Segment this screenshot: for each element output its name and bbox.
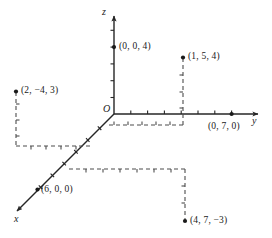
x-axis-label: x bbox=[14, 214, 19, 224]
axis-y bbox=[114, 111, 258, 115]
point-2-neg4-3 bbox=[14, 89, 18, 93]
guide-point-4-7-neg3 bbox=[69, 169, 185, 221]
point-label-1-5-4: (1, 5, 4) bbox=[188, 52, 220, 62]
point-0-7-0 bbox=[230, 112, 234, 116]
origin-label: O bbox=[103, 104, 110, 114]
y-axis-label: y bbox=[252, 116, 257, 126]
point-label-2-neg4-3: (2, −4, 3) bbox=[21, 86, 58, 96]
axes-diagram bbox=[0, 0, 272, 238]
coordinate-figure: z y x O (0, 0, 4) (1, 5, 4) (2, −4, 3) (… bbox=[0, 0, 272, 238]
point-1-5-4 bbox=[181, 55, 185, 59]
point-0-0-4 bbox=[112, 45, 116, 49]
axis-x bbox=[17, 114, 114, 211]
point-label-0-7-0: (0, 7, 0) bbox=[208, 122, 240, 132]
point-label-6-0-0: (6, 0, 0) bbox=[41, 185, 73, 195]
point-label-0-0-4: (0, 0, 4) bbox=[119, 42, 151, 52]
point-4-7-neg3 bbox=[183, 219, 187, 223]
guide-point-2-neg4-3 bbox=[16, 92, 92, 150]
guide-floor-1-5 bbox=[106, 114, 183, 125]
z-axis-label: z bbox=[102, 7, 106, 17]
guide-point-1-5-4 bbox=[180, 58, 184, 114]
axis-z bbox=[111, 16, 115, 114]
point-6-0-0 bbox=[35, 187, 39, 191]
point-label-4-7-neg3: (4, 7, −3) bbox=[190, 216, 227, 226]
